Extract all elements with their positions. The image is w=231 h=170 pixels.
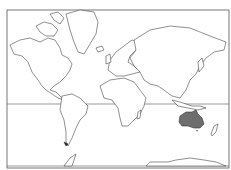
arctic-islands bbox=[36, 12, 64, 36]
antarctica-west bbox=[64, 154, 76, 166]
south-america bbox=[60, 94, 88, 146]
greenland bbox=[66, 10, 98, 54]
new-zealand bbox=[211, 124, 218, 136]
africa bbox=[100, 78, 146, 126]
australia-highlighted bbox=[179, 110, 204, 128]
world-map bbox=[0, 0, 231, 170]
uk bbox=[106, 54, 111, 64]
indonesia bbox=[172, 100, 206, 110]
tasmania bbox=[196, 130, 198, 132]
asia bbox=[130, 26, 226, 98]
iceland bbox=[96, 46, 104, 52]
antarctica-east bbox=[146, 158, 226, 166]
north-america bbox=[10, 38, 72, 100]
